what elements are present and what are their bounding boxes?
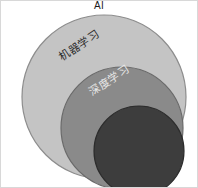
outer-circle-label-ai: AI (0, 1, 198, 11)
inner-circle-deep-learning (94, 106, 184, 188)
venn-diagram-container: AI 机器学习 深度学习 (0, 0, 198, 188)
